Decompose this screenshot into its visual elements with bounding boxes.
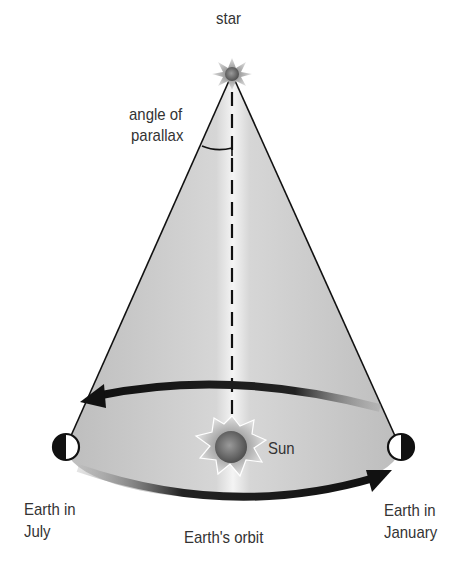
parallax-diagram: [0, 0, 468, 574]
earth-january-icon: [388, 434, 414, 460]
earth-july-icon: [53, 434, 79, 460]
january-label-line1: Earth in: [384, 500, 436, 521]
january-label-line2: January: [384, 522, 437, 543]
july-label-line1: Earth in: [24, 499, 76, 520]
star-icon: [212, 58, 252, 90]
angle-label-line2: parallax: [131, 125, 183, 146]
arrowhead-right: [366, 470, 392, 492]
angle-label-line1: angle of: [129, 104, 182, 125]
july-label-line2: July: [24, 521, 51, 542]
sun-label: Sun: [268, 438, 295, 459]
star-label: star: [216, 8, 241, 29]
orbit-label: Earth's orbit: [184, 527, 263, 548]
